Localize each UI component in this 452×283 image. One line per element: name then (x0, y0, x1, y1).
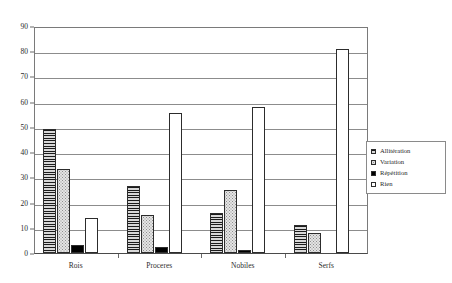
legend-item: Répétition (371, 168, 442, 178)
bar (308, 233, 321, 253)
legend-swatch-icon (371, 171, 376, 176)
legend-item: Allitération (371, 146, 442, 156)
y-axis-tick-label: 90 (21, 23, 29, 31)
y-axis-tick-label: 10 (21, 225, 29, 233)
legend-item-label: Rien (380, 181, 392, 188)
bar (224, 190, 237, 253)
bars-layer (35, 28, 367, 253)
bar (336, 49, 349, 253)
y-axis-tick-label: 70 (21, 74, 29, 82)
x-axis-category-label: Proceres (146, 262, 172, 270)
x-axis-tick-mark (118, 254, 119, 258)
bar (57, 169, 70, 253)
x-axis-tick-mark (285, 254, 286, 258)
legend-item: Variation (371, 157, 442, 167)
bar (169, 113, 182, 253)
y-axis-tick-label: 50 (21, 124, 29, 132)
x-axis-tick-mark (201, 254, 202, 258)
y-axis-tick-label: 80 (21, 48, 29, 56)
y-axis: 0102030405060708090 (0, 27, 34, 254)
x-axis: RoisProceresNobilesSerfs (34, 254, 368, 282)
bar (43, 129, 56, 253)
bar (141, 215, 154, 253)
legend-item-label: Répétition (380, 170, 407, 177)
bar (252, 107, 265, 253)
bar-chart-figure: 0102030405060708090 (%) RoisProceresNobi… (0, 0, 452, 283)
legend: AllitérationVariationRépétitionRien (366, 141, 446, 194)
y-axis-tick-label: 60 (21, 99, 29, 107)
bar (294, 225, 307, 253)
legend-swatch-icon (371, 182, 376, 187)
legend-item-label: Variation (380, 159, 404, 166)
plot-area (34, 27, 368, 254)
y-axis-tick-label: 0 (24, 250, 28, 258)
bar (127, 186, 140, 253)
bar (210, 213, 223, 253)
legend-swatch-icon (371, 160, 376, 165)
y-axis-tick-label: 20 (21, 200, 29, 208)
y-axis-tick-label: 40 (21, 149, 29, 157)
x-axis-category-label: Nobiles (231, 262, 254, 270)
x-axis-category-label: Rois (69, 262, 83, 270)
legend-swatch-icon (371, 149, 376, 154)
bar (155, 247, 168, 253)
bar (71, 245, 84, 253)
y-axis-tick-label: 30 (21, 175, 29, 183)
x-axis-category-label: Serfs (319, 262, 334, 270)
bar (85, 218, 98, 253)
legend-item: Rien (371, 179, 442, 189)
legend-item-label: Allitération (380, 148, 410, 155)
bar (238, 250, 251, 253)
